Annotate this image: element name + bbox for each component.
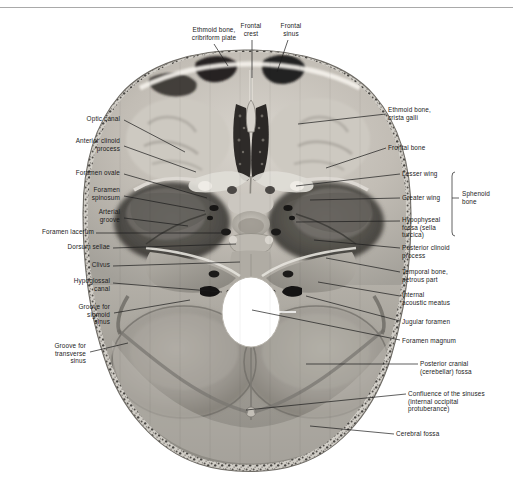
label-ethmoid-crista-galli: Ethmoid bone, crista galli (388, 106, 478, 121)
label-groove-transverse-sinus: Groove for transverse sinus (20, 342, 86, 365)
label-posterior-clinoid-process: Posterior clinoid process (402, 244, 486, 259)
anatomy-figure: Ethmoid bone, cribriform plateFrontal cr… (0, 0, 513, 489)
label-temporal-bone-petrous: Temporal bone, petrous part (402, 268, 486, 283)
label-jugular-foramen: Jugular foramen (402, 318, 486, 326)
label-arterial-groove: Arterial groove (62, 208, 120, 223)
label-sphenoid-bone: Sphenoid bone (462, 190, 506, 205)
label-frontal-sinus: Frontal sinus (272, 22, 310, 37)
label-foramen-magnum: Foramen magnum (402, 337, 492, 345)
label-lesser-wing: Lesser wing (402, 170, 470, 178)
label-anterior-clinoid-process: Anterior clinoid process (48, 137, 120, 152)
label-groove-sigmoid-sinus: Groove for sigmoid sinus (48, 303, 110, 326)
label-frontal-crest: Frontal crest (232, 22, 270, 37)
label-posterior-cranial-fossa: Posterior cranial (cerebellar) fossa (420, 360, 508, 375)
label-dorsum-sellae: Dorsum sellae (40, 243, 110, 251)
label-cerebral-fossa: Cerebral fossa (396, 430, 472, 438)
label-hypoglossal-canal: Hypoglossal canal (44, 277, 110, 292)
label-confluence-of-sinuses: Confluence of the sinuses (internal occi… (408, 390, 512, 413)
label-hypophyseal-fossa: Hypophyseal fossa (sella turcica) (402, 216, 474, 239)
label-foramen-lacerum: Foramen lacerum (16, 228, 94, 236)
label-foramen-spinosum: Foramen spinosum (58, 186, 120, 201)
label-internal-acoustic-meatus: Internal acoustic meatus (402, 291, 486, 306)
label-clivus: Clivus (62, 261, 110, 269)
label-frontal-bone: Frontal bone (388, 144, 458, 152)
label-optic-canal: Optic canal (62, 115, 120, 123)
label-foramen-ovale: Foramen ovale (50, 169, 120, 177)
